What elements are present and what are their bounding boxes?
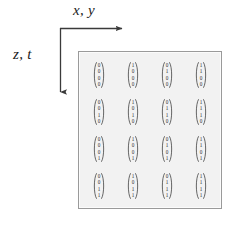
vector-cell: 1111 [184, 167, 218, 204]
vector-entry: 0 [166, 81, 169, 87]
vector-r1c2: 1000 [126, 62, 141, 88]
vector-r2c1: 0010 [92, 99, 107, 125]
vector-cell: 1010 [116, 93, 150, 130]
vector-r3c4: 1101 [194, 136, 209, 162]
vector-entry: 0 [200, 118, 203, 124]
vector-r2c2: 1010 [126, 99, 141, 125]
right-paren-icon [101, 99, 106, 125]
vector-cell: 0011 [82, 167, 116, 204]
vector-r1c1: 0000 [92, 62, 107, 88]
vector-entry: 1 [98, 155, 101, 161]
right-paren-icon [203, 136, 208, 162]
vector-entry: 1 [98, 192, 101, 198]
vector-entry: 0 [98, 81, 101, 87]
right-paren-icon [203, 173, 208, 199]
vector-entry: 0 [98, 118, 101, 124]
vector-r1c4: 1100 [194, 62, 209, 88]
vector-entry: 1 [166, 192, 169, 198]
vector-entry: 0 [166, 118, 169, 124]
vector-cell: 0110 [150, 93, 184, 130]
vector-r3c1: 0001 [92, 136, 107, 162]
vector-entry: 1 [200, 192, 203, 198]
right-paren-icon [203, 62, 208, 88]
vector-r4c4: 1111 [194, 173, 209, 199]
right-paren-icon [101, 62, 106, 88]
vector-r3c2: 1001 [126, 136, 141, 162]
vector-r4c1: 0011 [92, 173, 107, 199]
right-paren-icon [169, 99, 174, 125]
vector-entry: 1 [132, 192, 135, 198]
right-paren-icon [169, 173, 174, 199]
vector-cell: 1000 [116, 56, 150, 93]
right-paren-icon [203, 99, 208, 125]
figure-container: x, y z, t 000010000100110000101010011011… [0, 0, 244, 225]
vector-entry: 1 [200, 155, 203, 161]
right-paren-icon [135, 99, 140, 125]
right-paren-icon [169, 62, 174, 88]
vector-cell: 1001 [116, 130, 150, 167]
vector-cell: 0111 [150, 167, 184, 204]
vector-cell: 0001 [82, 130, 116, 167]
right-paren-icon [135, 62, 140, 88]
vector-cell: 1011 [116, 167, 150, 204]
vector-entry: 0 [200, 81, 203, 87]
vector-entry: 0 [132, 118, 135, 124]
right-paren-icon [101, 136, 106, 162]
vector-cell: 1110 [184, 93, 218, 130]
vector-entry: 1 [166, 155, 169, 161]
vector-r4c2: 1011 [126, 173, 141, 199]
vector-cell: 1101 [184, 130, 218, 167]
right-paren-icon [135, 173, 140, 199]
vector-r1c3: 0100 [160, 62, 175, 88]
vector-cell: 0100 [150, 56, 184, 93]
vector-entry: 0 [132, 81, 135, 87]
right-paren-icon [135, 136, 140, 162]
vector-cell: 0101 [150, 130, 184, 167]
vector-cell: 0000 [82, 56, 116, 93]
right-paren-icon [101, 173, 106, 199]
vector-r4c3: 0111 [160, 173, 175, 199]
vector-grid-box: 0000100001001100001010100110111000011001… [78, 51, 222, 209]
right-paren-icon [169, 136, 174, 162]
vector-entry: 1 [132, 155, 135, 161]
vector-cell: 1100 [184, 56, 218, 93]
vector-grid: 0000100001001100001010100110111000011001… [79, 52, 221, 208]
vector-r2c3: 0110 [160, 99, 175, 125]
vector-r3c3: 0101 [160, 136, 175, 162]
vector-r2c4: 1110 [194, 99, 209, 125]
vector-cell: 0010 [82, 93, 116, 130]
